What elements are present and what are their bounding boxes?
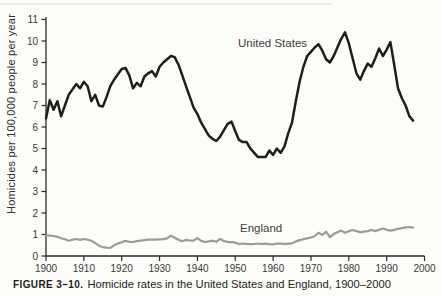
homicide-rates-line-chart: 0123456789101119001910192019301940195019… — [0, 0, 442, 276]
us-series-line — [46, 32, 413, 157]
us-series-label: United States — [238, 37, 307, 49]
figure-caption-number: FIGURE 3–10. — [13, 279, 83, 290]
y-axis-tick-label: 0 — [32, 251, 38, 262]
y-axis-tick-label: 6 — [32, 122, 38, 133]
x-axis-tick-label: 1980 — [338, 263, 361, 274]
x-axis-tick-label: 1950 — [224, 263, 247, 274]
x-axis-tick-label: 1960 — [262, 263, 285, 274]
y-axis-tick-label: 4 — [32, 165, 38, 176]
y-axis-tick-label: 3 — [32, 186, 38, 197]
y-axis-tick-label: 2 — [32, 208, 38, 219]
y-axis-tick-label: 8 — [32, 79, 38, 90]
x-axis-tick-label: 1940 — [186, 263, 209, 274]
x-axis-tick-label: 2000 — [413, 263, 436, 274]
y-axis-title: Homicides per 100,000 people per year — [5, 62, 19, 214]
axes-lines — [46, 17, 425, 256]
x-axis-tick-label: 1910 — [73, 263, 96, 274]
x-axis-tick-label: 1930 — [148, 263, 171, 274]
figure-panel: Homicides per 100,000 people per year 01… — [0, 0, 442, 296]
y-axis-tick-label: 10 — [27, 36, 39, 47]
figure-caption-text: Homicide rates in the United States and … — [87, 278, 391, 290]
x-axis-tick-label: 1970 — [300, 263, 323, 274]
figure-caption: FIGURE 3–10.Homicide rates in the United… — [13, 278, 433, 290]
y-axis-tick-label: 9 — [32, 57, 38, 68]
page-scan-artifact-line — [0, 3, 332, 5]
y-axis-tick-label: 1 — [32, 229, 38, 240]
england-series-line — [46, 227, 413, 248]
x-axis-tick-label: 1990 — [376, 263, 399, 274]
y-axis-tick-label: 5 — [32, 143, 38, 154]
england-series-label: England — [240, 222, 282, 234]
x-axis-tick-label: 1920 — [111, 263, 134, 274]
y-axis-tick-label: 7 — [32, 100, 38, 111]
x-axis-tick-label: 1900 — [35, 263, 58, 274]
y-axis-tick-label: 11 — [28, 14, 39, 25]
